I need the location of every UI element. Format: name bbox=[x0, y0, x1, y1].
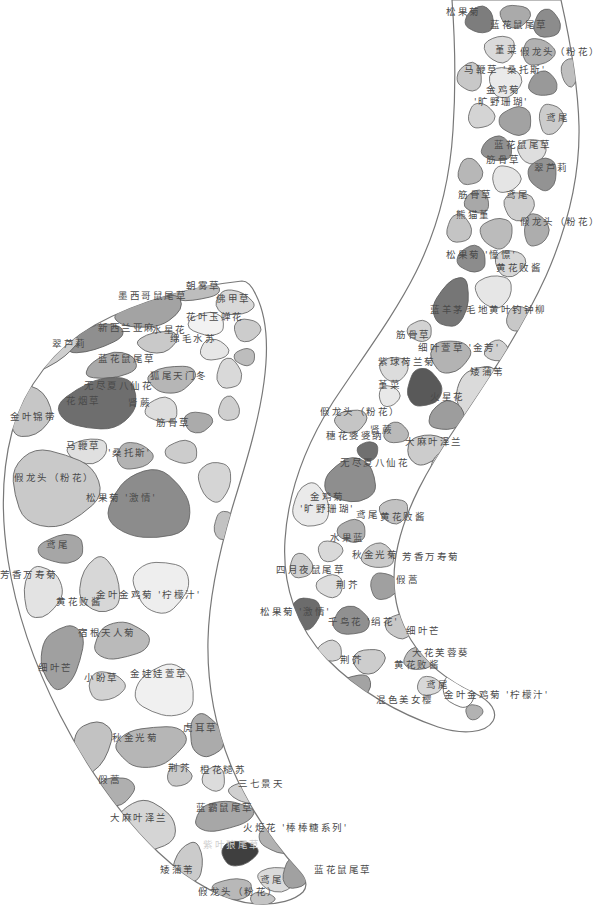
plant-label: 筋骨草 bbox=[458, 189, 493, 200]
plant-label: 蓝霸鼠尾草 bbox=[196, 802, 254, 813]
plant-label: 蓝花鼠尾草 bbox=[314, 864, 372, 875]
plant-label: 蓝花鼠尾草 bbox=[98, 353, 156, 364]
plant-label: 鸢尾 bbox=[506, 189, 529, 200]
plant-label: 橙花糙苏 bbox=[200, 764, 246, 775]
plant-label: 矮蒲苇 bbox=[160, 864, 195, 875]
plant-label: 筋骨草 bbox=[486, 154, 521, 165]
plant-patch bbox=[214, 511, 239, 539]
plant-label: 假蒿 bbox=[98, 774, 121, 785]
plant-label: '桑托斯' bbox=[108, 447, 151, 458]
plant-label: 佛甲草 bbox=[216, 293, 251, 304]
plant-label: 熊猫堇 bbox=[456, 209, 491, 220]
plant-label: 筋骨草 bbox=[156, 417, 191, 428]
plant-label: 金叶金鸡菊 '柠檬汁' bbox=[444, 689, 549, 700]
plant-label: 松果菊 '激情' bbox=[86, 492, 156, 503]
plant-label: 狐尾天门冬 bbox=[150, 370, 208, 381]
plant-label: 毛地黄叶钓钟柳 bbox=[466, 304, 547, 315]
plant-label: '旷野珊瑚' bbox=[300, 503, 354, 514]
plant-label: 细叶萱草 '金芳' bbox=[418, 342, 500, 353]
plant-label: 黄花败酱 bbox=[394, 659, 440, 670]
plant-label: 荆芥 bbox=[168, 762, 191, 773]
plant-label: 假龙头（粉花） bbox=[320, 406, 401, 417]
plant-label: 细叶芒 bbox=[406, 625, 441, 636]
plant-label: 混色美女樱 bbox=[376, 694, 434, 705]
plant-patch bbox=[283, 858, 308, 888]
plant-label: 小盼草 bbox=[84, 672, 119, 683]
plant-label: 假龙头（粉花） bbox=[14, 472, 95, 483]
plant-label: 花叶玉蝉花 bbox=[186, 311, 244, 322]
plant-label: 芳香万寿菊 bbox=[0, 569, 58, 580]
plant-label: 蓝羊茅 bbox=[430, 304, 465, 315]
plant-label: 大花芙蓉葵 bbox=[412, 647, 470, 658]
plant-label: 大麻叶泽兰 bbox=[405, 436, 463, 447]
plant-label: 肾蕨 bbox=[370, 424, 393, 435]
plant-label: 无尽夏八仙花 bbox=[340, 457, 409, 468]
plant-label: 花烟草 bbox=[66, 395, 101, 406]
plant-label: 芳香万寿菊 bbox=[402, 551, 460, 562]
plant-label: 荆芥 bbox=[340, 654, 363, 665]
plant-label: 金叶锦带 bbox=[10, 411, 56, 422]
plant-label: 鸢尾 bbox=[356, 509, 379, 520]
plant-label: 荆芥 bbox=[336, 579, 359, 590]
plant-label: 金鸡菊 bbox=[486, 84, 521, 95]
plant-label: 水果蓝 bbox=[330, 532, 365, 543]
plant-label: 绵毛水苏 bbox=[170, 333, 216, 344]
plant-label: 金叶金鸡菊 '柠檬汁' bbox=[96, 589, 201, 600]
plant-label: 四月夜鼠尾草 bbox=[276, 564, 345, 575]
plant-label: 鸢尾 bbox=[546, 112, 569, 123]
plant-label: 翠芦莉 bbox=[534, 162, 569, 173]
plant-label: 假龙头（粉花） bbox=[198, 886, 279, 897]
plant-label: 金娃娃萱草 bbox=[130, 668, 188, 679]
plant-label: 细叶芒 bbox=[38, 662, 73, 673]
plant-label: 秋金光菊 bbox=[112, 732, 158, 743]
plant-label: 金鸡菊 bbox=[310, 491, 345, 502]
plant-label: 紫球荷兰菊 bbox=[378, 356, 436, 367]
plant-label: 松果菊 '激情' bbox=[260, 606, 330, 617]
plant-label: 筋骨草 bbox=[396, 329, 431, 340]
plant-label: 紫叶狼尾草 bbox=[203, 839, 261, 850]
plant-label: 黄花败酱 bbox=[496, 262, 542, 273]
plant-label: 大麻叶泽兰 bbox=[110, 812, 168, 823]
plant-label: 黄花败酱 bbox=[56, 596, 102, 607]
plant-label: 假龙头（粉花） bbox=[520, 46, 601, 57]
planting-plan: 朝雾草墨西哥鼠尾草佛甲草花叶玉蝉花新西兰亚麻水星花绵毛水苏翠芦莉蓝花鼠尾草狐尾天… bbox=[0, 0, 608, 905]
plant-label: 秋金光菊 bbox=[352, 549, 398, 560]
plant-label: 新西兰亚麻 bbox=[98, 322, 156, 333]
plant-label: 蓝花鼠尾草 bbox=[494, 139, 552, 150]
plant-label: 千鸟花 '绢花' bbox=[328, 616, 398, 627]
plant-label: 宿根天人菊 bbox=[78, 627, 136, 638]
plant-patch bbox=[326, 671, 375, 708]
plant-label: 火炬花 '棒棒糖系列' bbox=[243, 822, 348, 833]
plant-label: 翠芦莉 bbox=[52, 338, 87, 349]
plant-label: '旷野珊瑚' bbox=[474, 96, 528, 107]
plant-label: 朝雾草 bbox=[186, 280, 221, 291]
plant-label: 无尽夏八仙花 bbox=[84, 380, 153, 391]
plant-label: 鸢尾 bbox=[46, 539, 69, 550]
plant-label: 三七景天 bbox=[238, 778, 284, 789]
plant-label: 火星花 bbox=[430, 391, 465, 402]
planting-plan-canvas: 朝雾草墨西哥鼠尾草佛甲草花叶玉蝉花新西兰亚麻水星花绵毛水苏翠芦莉蓝花鼠尾草狐尾天… bbox=[0, 0, 608, 905]
plant-label: 黄花败酱 bbox=[380, 511, 426, 522]
plant-label: 肾蕨 bbox=[128, 397, 151, 408]
plant-label: 堇菜 bbox=[378, 379, 401, 390]
plant-label: 矮蒲苇 bbox=[470, 366, 505, 377]
plant-label: 松果菊 '憧憬' bbox=[446, 249, 516, 260]
plant-label: 假蒿 bbox=[396, 574, 419, 585]
plant-label: 蓝花鼠尾草 bbox=[490, 19, 548, 30]
plant-label: 堇菜 bbox=[495, 44, 518, 55]
plant-label: 松果菊 bbox=[446, 6, 481, 17]
plant-label: 马鞭草 bbox=[66, 440, 101, 451]
plant-label: 假龙头（粉花） bbox=[520, 216, 601, 227]
plant-label: 马鞭草 '桑托斯' bbox=[464, 64, 546, 75]
plant-label: 虎耳草 bbox=[183, 722, 218, 733]
plant-label: 鸢尾 bbox=[260, 874, 283, 885]
plant-label: 墨西哥鼠尾草 bbox=[118, 290, 187, 301]
